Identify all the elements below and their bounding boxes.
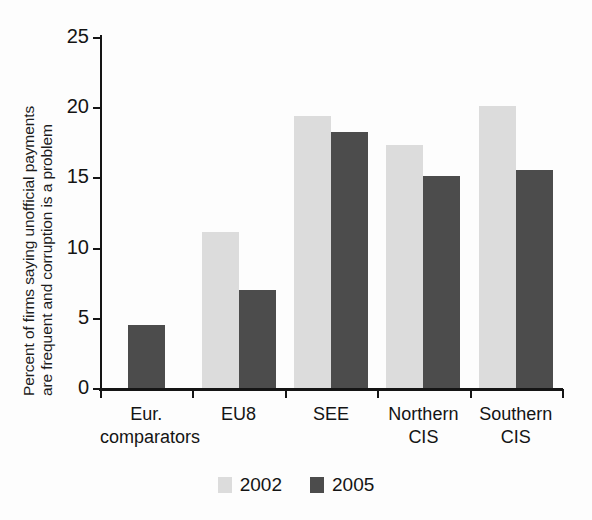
x-axis-category-label: NorthernCIS <box>377 403 469 449</box>
y-axis-tick-label: 0 <box>78 376 89 399</box>
x-axis-category-label: Eur.comparators <box>100 403 192 449</box>
x-axis-tick-mark <box>192 389 194 398</box>
x-axis-category-label: EU8 <box>192 403 284 426</box>
y-axis-tick-label: 20 <box>67 95 89 118</box>
x-axis-line <box>99 388 563 391</box>
bar-2002-eu8[interactable] <box>202 232 239 388</box>
bar-2005-see[interactable] <box>331 132 368 388</box>
bar-2005-southern-cis[interactable] <box>516 170 553 388</box>
bar-2002-northern-cis[interactable] <box>386 145 423 388</box>
y-axis-tick-label: 5 <box>78 306 89 329</box>
x-axis-tick-mark <box>562 389 564 398</box>
legend-label-2002: 2002 <box>240 474 282 496</box>
bar-2002-see[interactable] <box>294 116 331 388</box>
y-axis-tick-mark <box>93 388 100 390</box>
y-axis-tick-mark <box>93 37 100 39</box>
x-axis-category-label-line: Southern <box>470 403 562 426</box>
x-axis-tick-mark <box>470 389 472 398</box>
y-axis-tick-mark <box>93 248 100 250</box>
y-axis-title-line-1: Percent of firms saying unofficial payme… <box>20 106 38 396</box>
x-axis-category-label: SEE <box>285 403 377 426</box>
bar-2005-eu8[interactable] <box>239 290 276 388</box>
legend-label-2005: 2005 <box>332 474 374 496</box>
x-axis-tick-mark <box>377 389 379 398</box>
bar-2002-southern-cis[interactable] <box>479 106 516 388</box>
y-axis-tick-mark <box>93 318 100 320</box>
x-axis-tick-mark <box>285 389 287 398</box>
legend-item-2005[interactable]: 2005 <box>310 474 374 496</box>
x-axis-category-label-line: EU8 <box>192 403 284 426</box>
legend-item-2002[interactable]: 2002 <box>218 474 282 496</box>
x-axis-category-label-line: Eur. <box>100 403 192 426</box>
y-axis-tick-label: 10 <box>67 236 89 259</box>
legend-swatch-2005 <box>310 477 324 493</box>
x-axis-category-label-line: CIS <box>470 426 562 449</box>
y-axis-tick-label: 15 <box>67 165 89 188</box>
x-axis-category-label-line: CIS <box>377 426 469 449</box>
bar-2005-eur-comparators[interactable] <box>128 325 165 388</box>
x-axis-category-label-line: Northern <box>377 403 469 426</box>
x-axis-category-label-line: SEE <box>285 403 377 426</box>
y-axis-tick-mark <box>93 177 100 179</box>
plot-area: 0510152025 <box>100 37 562 388</box>
y-axis-title: Percent of firms saying unofficial payme… <box>22 18 78 396</box>
chart-legend: 20022005 <box>0 474 592 496</box>
x-axis-category-label: SouthernCIS <box>470 403 562 449</box>
y-axis-tick-mark <box>93 107 100 109</box>
legend-swatch-2002 <box>218 477 232 493</box>
bar-chart-figure: Percent of firms saying unofficial payme… <box>0 0 592 520</box>
y-axis-title-line-2: are frequent and corruption is a problem <box>38 124 56 396</box>
x-axis-category-label-line: comparators <box>100 426 192 449</box>
x-axis-tick-mark <box>100 389 102 398</box>
y-axis-tick-label: 25 <box>67 25 89 48</box>
bar-2005-northern-cis[interactable] <box>423 176 460 388</box>
